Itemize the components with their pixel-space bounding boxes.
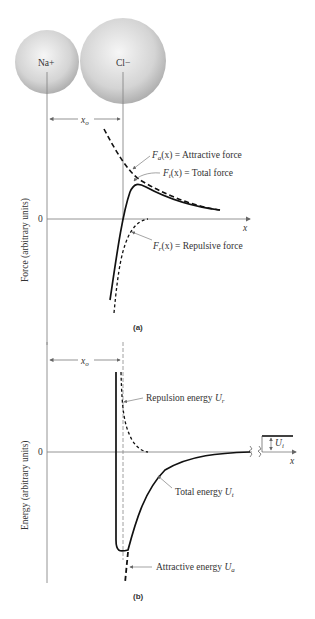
repulsive-force-label: Fr(x) = Repulsive force xyxy=(152,241,243,253)
figure-a: Na+ Cl− xo 0 x Force (arbitrary units) F… xyxy=(15,18,250,345)
attractive-energy-curve xyxy=(125,552,128,583)
na-ion-label: Na+ xyxy=(38,58,54,68)
figure-canvas: Na+ Cl− xo 0 x Force (arbitrary units) F… xyxy=(0,0,315,619)
total-force-label: Ft(x) = Total force xyxy=(162,168,233,180)
attractive-energy-label: Attractive energy Ua xyxy=(156,562,235,574)
attractive-force-label: Fa(x) = Attractive force xyxy=(151,150,242,162)
total-energy-label: Total energy Ut xyxy=(175,487,235,499)
repulsion-energy-curve xyxy=(121,372,148,452)
figure-a-caption: (a) xyxy=(133,323,143,332)
energy-y-label: Energy (arbitrary units) xyxy=(20,440,31,530)
energy-x-label: x xyxy=(289,456,295,466)
force-zero-label: 0 xyxy=(38,214,43,224)
figure-b-caption: (b) xyxy=(133,592,144,601)
repulsive-force-curve xyxy=(114,219,148,313)
force-y-label: Force (arbitrary units) xyxy=(20,198,31,282)
axis-break-right xyxy=(258,446,261,457)
energy-zero-label: 0 xyxy=(38,447,43,457)
ui-label: Ui xyxy=(275,438,284,450)
figure-b: xo 0 x Energy (arbitrary units) Ui Repul… xyxy=(20,342,296,601)
repulsion-energy-label: Repulsion energy Ur xyxy=(146,393,225,405)
cl-ion-label: Cl− xyxy=(116,58,130,68)
force-x-label: x xyxy=(242,223,248,233)
